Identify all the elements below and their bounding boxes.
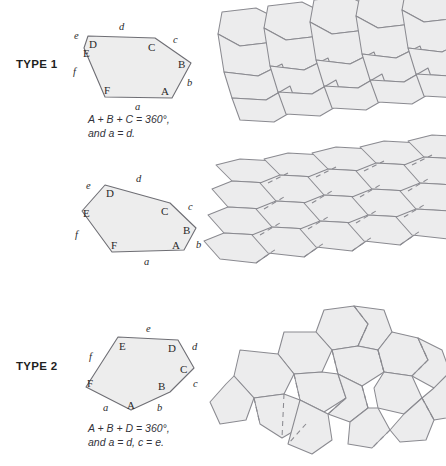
type-2-tiling [228, 153, 446, 303]
type-2-vertex-C: C [161, 205, 168, 217]
type-2-side-f: f [75, 229, 80, 240]
type-1-vertex-E: E [83, 47, 90, 59]
type-1-caption-line-1: A + B + C = 360°, [88, 112, 170, 126]
type-1-caption-line-2: and a = d. [88, 126, 170, 140]
type-1-vertex-C: C [148, 41, 155, 53]
type-3-vertex-D: D [168, 342, 176, 354]
hexagon-tiling-figure: TYPE 1 D C B A F E d c b a f e A + B + C… [0, 0, 446, 466]
type-3-tiling [228, 304, 446, 464]
type-3-side-f: f [89, 351, 94, 362]
type-2-side-d: d [136, 173, 142, 184]
type-3-row: TYPE 3 E D C B A F e d c b a f A = C = E… [0, 310, 446, 465]
type-1-tile-group [218, 0, 446, 122]
type-1-hexagon [84, 36, 191, 98]
type-1-side-b: b [187, 77, 192, 88]
type-2-vertex-A: A [172, 239, 180, 251]
type-3-vertex-A: A [127, 399, 135, 411]
type-3-side-a: a [103, 402, 108, 413]
type-2-side-e: e [86, 180, 91, 191]
type-3-side-d: d [192, 341, 198, 352]
type-1-diagram: D C B A F E d c b a f e [0, 0, 230, 120]
type-1-side-d: d [119, 21, 125, 32]
type-1-vertex-F: F [104, 84, 110, 96]
type-2-vertex-D: D [106, 187, 114, 199]
type-2-side-b: b [196, 239, 201, 250]
type-3-side-b: b [157, 402, 162, 413]
type-3-vertex-F: F [87, 377, 93, 389]
type-2-vertex-B: B [183, 224, 190, 236]
type-3-vertex-B: B [158, 380, 165, 392]
type-2-vertex-E: E [83, 207, 90, 219]
type-1-side-f: f [73, 66, 78, 77]
type-1-caption: A + B + C = 360°, and a = d. [88, 112, 170, 140]
type-2-vertex-F: F [111, 239, 117, 251]
type-3-vertex-E: E [119, 340, 126, 352]
type-2-side-c: c [188, 201, 193, 212]
type-2-diagram: D C B A F E d c b a f e [0, 155, 230, 275]
type-3-side-e: e [146, 323, 151, 334]
type-1-side-e: e [74, 30, 79, 41]
type-1-vertex-B: B [178, 58, 185, 70]
type-3-tile-group [210, 306, 446, 454]
type-3-vertex-C: C [180, 363, 187, 375]
type-1-row: TYPE 1 D C B A F E d c b a f e A + B + C… [0, 0, 446, 155]
type-1-side-c: c [173, 34, 178, 45]
type-1-side-a: a [135, 101, 140, 112]
type-3-diagram: E D C B A F e d c b a f [0, 310, 230, 430]
type-2-side-a: a [144, 256, 149, 267]
type-1-tiling [228, 6, 446, 134]
type-1-vertex-A: A [161, 85, 169, 97]
type-3-side-c: c [193, 378, 198, 389]
type-2-row: TYPE 2 D C B A F E d c b a f e A + B + D… [0, 155, 446, 310]
type-3-hexagon [86, 337, 194, 410]
type-2-tile-group [204, 135, 446, 263]
type-1-vertex-D: D [89, 38, 97, 50]
